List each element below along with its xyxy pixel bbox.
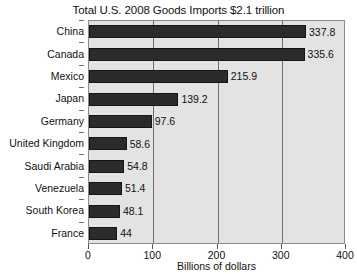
bar[interactable] <box>89 93 178 106</box>
bar-value-label: 54.8 <box>124 159 147 173</box>
category-tick <box>79 65 84 66</box>
bar[interactable] <box>89 137 127 150</box>
bar-value-label: 44 <box>117 226 132 240</box>
category-tick <box>79 222 84 223</box>
bar-row: 139.2 <box>89 88 344 110</box>
bar[interactable] <box>89 205 120 218</box>
bar-row: 51.4 <box>89 178 344 200</box>
bar-value-label: 58.6 <box>127 137 150 151</box>
category-tick <box>79 154 84 155</box>
bar[interactable] <box>89 227 117 240</box>
plot-area: 337.8335.6215.9139.297.658.654.851.448.1… <box>88 20 345 244</box>
category-label-china: China <box>0 24 84 38</box>
category-tick <box>79 87 84 88</box>
category-label-saudi-arabia: Saudi Arabia <box>0 159 84 173</box>
bars-layer: 337.8335.6215.9139.297.658.654.851.448.1… <box>89 21 344 243</box>
bar-row: 335.6 <box>89 43 344 65</box>
category-label-canada: Canada <box>0 47 84 61</box>
bar[interactable] <box>89 160 124 173</box>
bar-row: 58.6 <box>89 133 344 155</box>
category-label-united-kingdom: United Kingdom <box>0 136 84 150</box>
category-label-venezuela: Venezuela <box>0 181 84 195</box>
bar[interactable] <box>89 25 306 38</box>
bar-value-label: 97.6 <box>152 114 175 128</box>
category-axis-labels: ChinaCanadaMexicoJapanGermanyUnited King… <box>0 20 84 244</box>
category-label-germany: Germany <box>0 114 84 128</box>
bar-value-label: 337.8 <box>306 25 335 39</box>
bar-row: 48.1 <box>89 200 344 222</box>
category-tick <box>79 132 84 133</box>
x-axis-title: Billions of dollars <box>88 259 345 273</box>
bar[interactable] <box>89 48 305 61</box>
category-label-south-korea: South Korea <box>0 203 84 217</box>
bar-value-label: 215.9 <box>228 69 257 83</box>
bar-row: 97.6 <box>89 111 344 133</box>
category-tick <box>79 20 84 21</box>
bar-row: 337.8 <box>89 21 344 43</box>
bar-row: 54.8 <box>89 155 344 177</box>
category-label-mexico: Mexico <box>0 69 84 83</box>
bar[interactable] <box>89 115 152 128</box>
bar-row: 44 <box>89 223 344 245</box>
category-tick <box>79 177 84 178</box>
bar-row: 215.9 <box>89 66 344 88</box>
bar-value-label: 51.4 <box>122 181 145 195</box>
category-label-japan: Japan <box>0 91 84 105</box>
bar[interactable] <box>89 70 228 83</box>
category-label-france: France <box>0 226 84 240</box>
category-tick <box>79 42 84 43</box>
chart-title: Total U.S. 2008 Goods Imports $2.1 trill… <box>0 3 357 17</box>
bar-chart-figure: Total U.S. 2008 Goods Imports $2.1 trill… <box>0 0 357 274</box>
category-tick <box>79 110 84 111</box>
category-tick <box>79 199 84 200</box>
bar-value-label: 139.2 <box>178 92 207 106</box>
bar-value-label: 335.6 <box>305 47 334 61</box>
bar-value-label: 48.1 <box>120 204 143 218</box>
bar[interactable] <box>89 182 122 195</box>
